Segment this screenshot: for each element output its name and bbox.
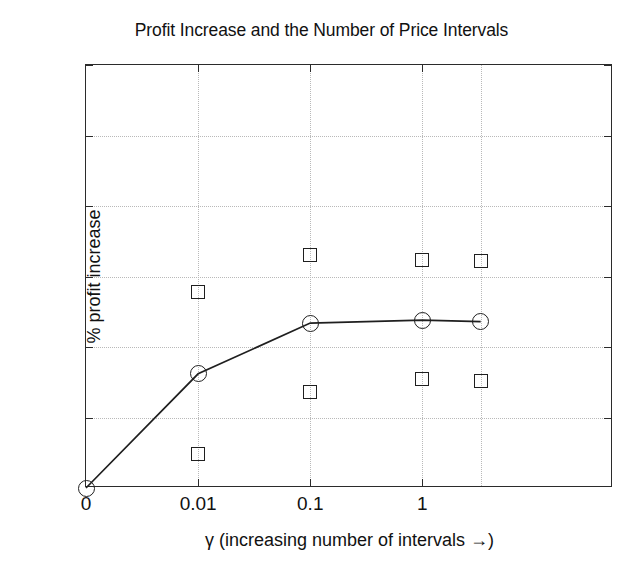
y-axis-tick: [86, 418, 93, 419]
gridline-vertical: [422, 65, 423, 486]
x-axis-tick: [310, 479, 311, 486]
x-axis-tick-label: 0.1: [297, 493, 323, 515]
data-point-square: [415, 253, 429, 267]
y-axis-tick-right: [604, 347, 611, 348]
gridline-vertical: [481, 65, 482, 486]
gridline-vertical: [310, 65, 311, 486]
data-point-square: [191, 447, 205, 461]
data-point-circle: [472, 313, 489, 330]
x-axis-tick: [198, 479, 199, 486]
data-point-circle: [190, 365, 207, 382]
data-point-square: [191, 285, 205, 299]
gridline-vertical: [198, 65, 199, 486]
y-axis-tick: [86, 136, 93, 137]
y-axis-tick-right: [604, 277, 611, 278]
data-point-square: [474, 254, 488, 268]
x-axis-tick-label: 0.01: [180, 493, 217, 515]
data-point-square: [303, 248, 317, 262]
y-axis-tick-right: [604, 65, 611, 66]
plot-area: % profit increase γ (increasing number o…: [85, 64, 612, 487]
data-point-square: [415, 372, 429, 386]
y-axis-tick: [86, 65, 93, 66]
y-axis-tick-right: [604, 136, 611, 137]
x-axis-tick-label: 1: [417, 493, 428, 515]
gridline-horizontal: [86, 347, 611, 348]
x-axis-tick-top: [310, 65, 311, 72]
gridline-horizontal: [86, 136, 611, 137]
x-axis-label: γ (increasing number of intervals →): [86, 530, 613, 551]
data-point-circle: [78, 480, 95, 497]
y-axis-tick: [86, 347, 93, 348]
figure-canvas: Profit Increase and the Number of Price …: [0, 0, 643, 566]
chart-title: Profit Increase and the Number of Price …: [0, 20, 643, 41]
gridline-horizontal: [86, 206, 611, 207]
gridline-horizontal: [86, 418, 611, 419]
data-point-circle: [302, 315, 319, 332]
y-axis-tick-right: [604, 418, 611, 419]
data-point-square: [303, 385, 317, 399]
x-axis-tick-top: [198, 65, 199, 72]
gridline-horizontal: [86, 277, 611, 278]
data-point-square: [474, 374, 488, 388]
x-axis-tick: [422, 479, 423, 486]
data-point-circle: [414, 312, 431, 329]
y-axis-tick: [86, 206, 93, 207]
x-axis-tick-top: [422, 65, 423, 72]
y-axis-tick-right: [604, 206, 611, 207]
y-axis-tick: [86, 277, 93, 278]
